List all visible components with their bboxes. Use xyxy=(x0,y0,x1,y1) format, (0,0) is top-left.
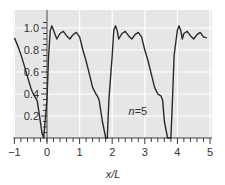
x-axis-ticks: −1012345 xyxy=(8,138,213,158)
x-tick-label: 0 xyxy=(44,146,50,158)
x-tick-label: 5 xyxy=(207,146,213,158)
x-tick-label: −1 xyxy=(8,146,21,158)
n-equals-5-annotation: n=5 xyxy=(129,105,148,117)
y-tick-label: 0.8 xyxy=(24,44,39,56)
y-tick-label: 1.0 xyxy=(24,22,39,34)
x-tick-label: 2 xyxy=(109,146,115,158)
y-tick-label: 0.2 xyxy=(24,110,39,122)
x-tick-label: 3 xyxy=(142,146,148,158)
annotation-value: =5 xyxy=(135,105,148,117)
x-tick-label: 1 xyxy=(77,146,83,158)
x-tick-label: 4 xyxy=(174,146,180,158)
chart: −1012345 0.20.40.60.81.0 n=5 x/L xyxy=(0,0,225,185)
x-axis-label: x/L xyxy=(105,168,121,180)
